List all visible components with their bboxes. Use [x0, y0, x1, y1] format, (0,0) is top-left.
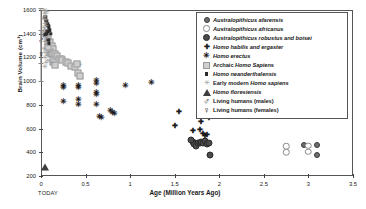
floresiensis-marker-icon	[200, 88, 213, 97]
y-axis-tick-label: 400	[12, 149, 36, 155]
legend-item[interactable]: Australopithicus afarensis	[200, 15, 344, 24]
early-modern-point: ✳	[44, 8, 50, 15]
erectus-point: ✳	[93, 80, 100, 88]
y-axis-tick-label: 600	[12, 126, 36, 132]
x-axis-tick-label: 0	[31, 181, 51, 187]
y-axis-tick-label: 1000	[12, 78, 36, 84]
habilis-point: ✚	[204, 130, 210, 137]
x-axis-tick-label: 2	[209, 181, 229, 187]
erectus-point: ✳	[75, 84, 82, 92]
africanus-marker-icon	[200, 24, 213, 33]
x-axis-tick-label: 3.5	[343, 181, 363, 187]
legend-item-label: Australopithicus robustus and boisei	[213, 35, 312, 41]
habilis-marker-icon: ✚	[200, 42, 213, 51]
y-axis-title: Brain Volume (cm³)	[16, 0, 23, 134]
legend-item[interactable]: Homo neanderthalensis	[200, 70, 344, 79]
robustus-point	[187, 137, 194, 144]
afarensis-point	[314, 142, 320, 148]
x-axis-tick-mark	[130, 174, 131, 178]
legend-item-label: Homo floresiensis	[213, 89, 261, 95]
robustus-point	[205, 139, 212, 146]
x-axis-tick-mark	[264, 174, 265, 178]
legend-item[interactable]: ♂Living humans (males)	[200, 97, 344, 106]
legend: Australopithicus afarensisAustralopithic…	[196, 12, 348, 119]
living-humans-female-point: ♀	[38, 49, 45, 58]
erectus-marker-icon: ✳	[200, 51, 213, 60]
africanus-point	[305, 148, 312, 155]
x-axis-tick-mark	[86, 174, 87, 178]
habilis-point: ✚	[176, 107, 182, 114]
error-bar-cap	[39, 8, 44, 9]
legend-item-label: Australopithicus africanus	[213, 26, 283, 32]
erectus-point: ✳	[93, 91, 100, 99]
x-axis-tick-mark	[219, 174, 220, 178]
legend-item-label: Australopithicus afarensis	[213, 17, 283, 23]
x-axis-title: Age (Million Years Ago)	[120, 189, 250, 196]
today-annotation: TODAY	[28, 190, 68, 196]
habilis-point: ✚	[172, 122, 178, 129]
erectus-point: ✳	[122, 82, 129, 90]
robustus-marker-icon	[200, 33, 213, 42]
legend-item[interactable]: ♀Living humans (females)	[200, 106, 344, 115]
x-axis-tick-mark	[353, 174, 354, 178]
x-axis-tick-mark	[41, 174, 42, 178]
erectus-point: ✳	[75, 101, 82, 109]
error-bar-cap	[39, 81, 44, 82]
y-axis-tick-label: 1600	[12, 7, 36, 13]
legend-item-label: Homo erectus	[213, 53, 250, 59]
x-axis-tick-mark	[308, 174, 309, 178]
legend-item[interactable]: ✚Homo habilis and ergaster	[200, 42, 344, 51]
legend-item[interactable]: Homo floresiensis	[200, 88, 344, 97]
early-modern-point: ✳	[43, 22, 49, 29]
brain-volume-scatter-chart: Brain Volume (cm³) Age (Million Years Ag…	[0, 0, 366, 209]
x-axis-tick-mark	[175, 174, 176, 178]
y-axis-tick-label: 1200	[12, 54, 36, 60]
erectus-point: ✳	[60, 98, 67, 106]
legend-item-label: Archaic Homo Sapiens	[213, 62, 274, 68]
afarensis-marker-icon	[200, 15, 213, 24]
legend-item-label: Homo habilis and ergaster	[213, 44, 283, 50]
legend-item-label: Homo neanderthalensis	[213, 71, 276, 77]
early-modern-marker-icon: ✳	[200, 79, 213, 88]
x-axis-tick-label: 0.5	[76, 181, 96, 187]
archaic-marker-icon	[200, 61, 213, 70]
legend-item[interactable]: Australopithicus africanus	[200, 24, 344, 33]
erectus-point: ✳	[111, 110, 118, 118]
erectus-point: ✳	[148, 79, 155, 87]
early-modern-point: ✳	[49, 59, 55, 66]
robustus-point	[207, 151, 214, 158]
neanderthalensis-marker-icon	[200, 70, 213, 79]
africanus-point	[283, 149, 290, 156]
x-axis-tick-label: 2.5	[254, 181, 274, 187]
legend-item[interactable]: Archaic Homo Sapiens	[200, 60, 344, 69]
legend-item[interactable]: ✳Early modern Homo sapiens	[200, 79, 344, 88]
y-axis-tick-label: 1400	[12, 31, 36, 37]
archaic-point	[77, 72, 84, 79]
legend-item[interactable]: ✳Homo erectus	[200, 51, 344, 60]
erectus-point: ✳	[98, 114, 105, 122]
y-axis-tick-mark	[39, 105, 43, 106]
x-axis-tick-label: 3	[298, 181, 318, 187]
habilis-point: ✚	[190, 126, 196, 133]
x-axis-tick-label: 1.5	[165, 181, 185, 187]
afarensis-point	[314, 152, 320, 158]
archaic-point	[73, 60, 80, 67]
y-axis-tick-mark	[39, 129, 43, 130]
floresiensis-point	[41, 163, 49, 170]
erectus-point: ✳	[93, 101, 100, 109]
female-marker-icon: ♀	[200, 106, 213, 115]
erectus-point: ✳	[60, 84, 67, 92]
y-axis-tick-mark	[39, 152, 43, 153]
legend-item-label: Living humans (females)	[213, 107, 279, 113]
legend-item-label: Living humans (males)	[213, 98, 274, 104]
y-axis-tick-label: 800	[12, 102, 36, 108]
legend-item-label: Early modern Homo sapiens	[213, 80, 289, 86]
legend-item[interactable]: Australopithicus robustus and boisei	[200, 33, 344, 42]
error-bar-cap	[39, 30, 44, 31]
y-axis-tick-label: 200	[12, 173, 36, 179]
x-axis-tick-label: 1	[120, 181, 140, 187]
